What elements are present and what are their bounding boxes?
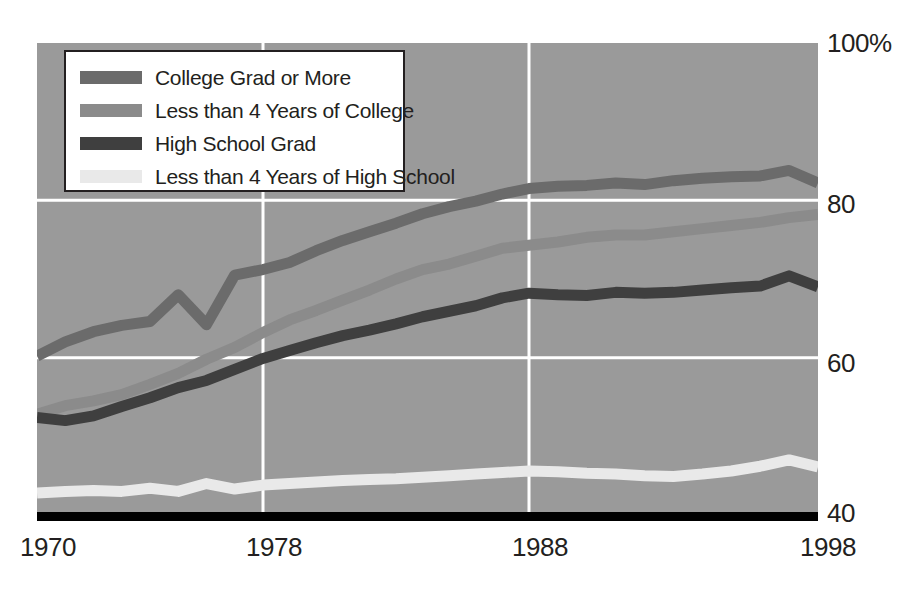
line-chart: 100% 80 60 40 1970 1978 1988 1998 Colleg…	[0, 0, 906, 592]
legend-item-college-grad-or-more: College Grad or More	[80, 61, 403, 94]
x-tick-label-1970: 1970	[20, 534, 76, 560]
x-tick-label-1998: 1998	[800, 534, 856, 560]
x-tick-label-1988: 1988	[512, 534, 568, 560]
legend-item-label: College Grad or More	[155, 67, 351, 88]
y-tick-label-100: 100%	[827, 30, 892, 56]
series-line	[37, 276, 818, 421]
legend-swatch-icon	[80, 137, 142, 150]
legend-item-less-than-4-years-of-high-school: Less than 4 Years of High School	[80, 160, 403, 193]
legend-swatch-icon	[80, 71, 142, 84]
legend-item-label: Less than 4 Years of College	[155, 100, 414, 121]
series-line	[37, 460, 818, 493]
y-tick-label-60: 60	[827, 350, 855, 376]
x-tick-label-1978: 1978	[246, 534, 302, 560]
series-lines	[37, 170, 818, 493]
x-axis-line	[37, 512, 818, 521]
legend-swatch-icon	[80, 170, 142, 183]
y-tick-label-40: 40	[827, 500, 855, 526]
legend-swatch-icon	[80, 104, 142, 117]
y-tick-label-80: 80	[827, 191, 855, 217]
chart-legend: College Grad or More Less than 4 Years o…	[64, 50, 405, 192]
legend-item-label: High School Grad	[155, 133, 316, 154]
legend-item-label: Less than 4 Years of High School	[155, 166, 455, 187]
legend-item-less-than-4-years-of-college: Less than 4 Years of College	[80, 94, 403, 127]
legend-item-high-school-grad: High School Grad	[80, 127, 403, 160]
